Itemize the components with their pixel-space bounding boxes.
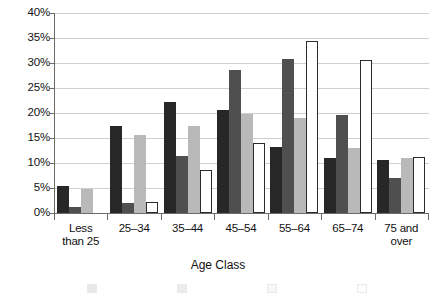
x-axis-label: 45–54 xyxy=(214,222,267,248)
legend-swatch xyxy=(357,284,367,293)
bar xyxy=(146,202,158,214)
bar xyxy=(164,102,176,213)
x-axis-tick xyxy=(321,213,322,220)
bar xyxy=(110,126,122,213)
legend-item xyxy=(357,284,370,293)
y-axis-tick-label: 15% xyxy=(4,132,50,144)
x-axis-label: 65–74 xyxy=(321,222,374,248)
x-axis-tick xyxy=(161,213,162,220)
x-axis-label: 75 andover xyxy=(375,222,428,248)
bar xyxy=(176,156,188,214)
legend-swatch xyxy=(267,284,277,293)
bar-group xyxy=(321,13,374,213)
bar xyxy=(306,41,318,214)
bar-group xyxy=(214,13,267,213)
bar xyxy=(57,186,69,214)
bar xyxy=(229,70,241,213)
legend-item xyxy=(87,284,100,293)
x-axis-tick xyxy=(107,213,108,220)
bar xyxy=(377,160,389,214)
y-axis-tick-label: 30% xyxy=(4,57,50,69)
bar xyxy=(188,126,200,214)
y-axis-tick-label: 35% xyxy=(4,32,50,44)
bar xyxy=(348,148,360,213)
x-axis-label: 35–44 xyxy=(161,222,214,248)
x-axis-label: 55–64 xyxy=(268,222,321,248)
y-axis-tick-label: 25% xyxy=(4,82,50,94)
legend-item xyxy=(177,284,190,293)
bar-group xyxy=(54,13,107,213)
bar xyxy=(253,143,265,213)
legend xyxy=(48,283,408,293)
x-axis-tick xyxy=(375,213,376,220)
bar xyxy=(270,147,282,214)
y-axis-tick-label: 40% xyxy=(4,7,50,19)
bar xyxy=(413,157,425,213)
bar xyxy=(294,118,306,213)
x-axis-tick xyxy=(268,213,269,220)
bar xyxy=(282,59,294,213)
bar-group xyxy=(375,13,428,213)
x-axis-labels: Lessthan 2525–3435–4445–5455–6465–7475 a… xyxy=(54,222,428,248)
y-axis-tick-label: 10% xyxy=(4,157,50,169)
x-axis-tick xyxy=(54,213,55,220)
bar xyxy=(389,178,401,213)
x-axis-label: Lessthan 25 xyxy=(54,222,107,248)
y-axis-tick-label: 5% xyxy=(4,182,50,194)
bar xyxy=(324,158,336,213)
bar xyxy=(336,115,348,213)
bar-group xyxy=(268,13,321,213)
bar xyxy=(241,114,253,214)
y-axis-tick-label: 20% xyxy=(4,107,50,119)
x-axis-label: 25–34 xyxy=(107,222,160,248)
bar xyxy=(217,110,229,213)
bar xyxy=(134,135,146,214)
x-axis-tick xyxy=(214,213,215,220)
legend-swatch xyxy=(177,284,187,293)
x-axis-tick xyxy=(428,213,429,220)
bar-chart: 40%35%30%25%20%15%10%5%0% Lessthan 2525–… xyxy=(0,0,436,293)
legend-swatch xyxy=(87,284,97,293)
bar xyxy=(122,203,134,213)
y-axis: 40%35%30%25%20%15%10%5%0% xyxy=(0,13,50,213)
bar xyxy=(200,170,212,213)
legend-item xyxy=(267,284,280,293)
y-axis-tick-label: 0% xyxy=(4,207,50,219)
bar xyxy=(401,158,413,214)
category-ticks xyxy=(54,213,428,220)
bar-groups xyxy=(54,13,428,213)
bar xyxy=(81,189,93,214)
x-axis-title: Age Class xyxy=(0,258,436,272)
bar-group xyxy=(161,13,214,213)
bar xyxy=(360,60,372,214)
bar-group xyxy=(107,13,160,213)
